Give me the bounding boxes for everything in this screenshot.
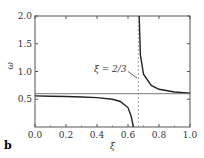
x-axis-label: ξ: [110, 141, 116, 151]
series-branch-right: [139, 16, 190, 93]
x-tick-label: 0.2: [59, 130, 73, 140]
x-tick-label: 0.8: [152, 130, 167, 140]
y-tick-label: 2.0: [18, 11, 33, 21]
annotation-arrow: [128, 72, 137, 79]
x-tick-label: 0.0: [28, 130, 43, 140]
panel-label: b: [4, 139, 12, 152]
x-tick-label: 1.0: [183, 130, 198, 140]
x-tick-label: 0.6: [121, 130, 136, 140]
series-branch-left: [35, 96, 133, 127]
x-tick-label: 0.4: [90, 130, 105, 140]
y-tick-label: 0.5: [18, 94, 33, 104]
y-tick-label: 1.5: [18, 39, 33, 49]
chart: 0.00.20.40.60.81.00.51.01.52.0ξωξ = 2/3: [0, 0, 204, 158]
y-tick-label: 1.0: [18, 67, 33, 77]
y-axis-label: ω: [5, 62, 15, 70]
annotation-label: ξ = 2/3: [94, 64, 127, 74]
